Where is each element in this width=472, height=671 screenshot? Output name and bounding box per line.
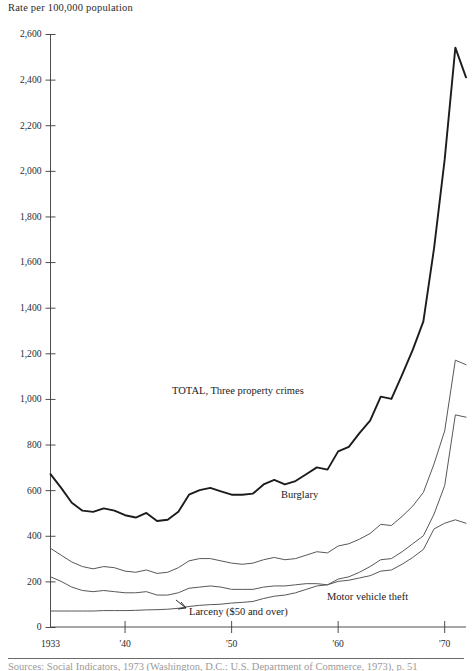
y-tick-label: 1,800 [20,211,42,222]
source-footnote: Sources: Social Indicators, 1973 (Washin… [8,661,464,671]
y-tick-label: 1,600 [20,256,42,267]
annotation-label: TOTAL, Three property crimes [172,385,304,396]
y-tick-label: 400 [27,530,42,541]
series-line-motor-vehicle-theft [51,520,467,595]
annotation-label: Larceny ($50 and over) [189,606,288,618]
series-line-total-three-property-crimes [51,48,467,521]
series-annotations: TOTAL, Three property crimesBurglaryMoto… [172,385,408,618]
chart-figure: Rate per 100,000 population 2,6002,4002,… [0,0,472,671]
y-tick-label: 800 [27,439,42,450]
series-lines [51,48,467,611]
x-tick-label: '70 [439,638,451,649]
y-tick-label: 2,400 [20,74,42,85]
annotation-label: Motor vehicle theft [327,591,408,602]
y-tick-label: 1,000 [20,393,42,404]
series-line-larceny-50-and-over [51,415,467,611]
y-tick-label: 200 [27,576,42,587]
y-tick-label: 2,200 [20,120,42,131]
x-axis-ticks: 1933'40'50'60'70 [41,621,451,649]
line-chart-svg: 2,6002,4002,2002,0001,8001,6001,4001,200… [0,0,472,671]
annotation-label: Burglary [281,489,319,500]
x-tick-label: 1933 [41,638,60,649]
y-tick-label: 1,200 [20,348,42,359]
x-tick-label: '50 [226,638,238,649]
x-tick-label: '60 [332,638,344,649]
footnote-divider [8,658,464,659]
x-tick-label: '40 [119,638,131,649]
y-tick-label: 2,000 [20,165,42,176]
y-tick-label: 0 [37,621,42,632]
y-tick-label: 600 [27,485,42,496]
y-tick-label: 2,600 [20,28,42,39]
y-tick-label: 1,400 [20,302,42,313]
